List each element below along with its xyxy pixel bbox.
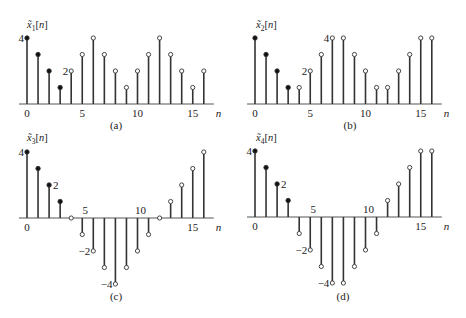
stem — [180, 69, 184, 104]
y-value-label: 2 — [302, 65, 308, 77]
x-tick-label: 15 — [415, 107, 427, 119]
open-marker — [180, 183, 184, 187]
stem — [308, 217, 312, 252]
stem — [374, 217, 378, 236]
open-marker — [202, 69, 206, 73]
x-tick-label: 0 — [252, 107, 258, 119]
stem — [69, 69, 73, 104]
open-marker — [146, 52, 150, 56]
open-marker — [297, 85, 301, 89]
stem — [352, 52, 356, 104]
filled-marker — [47, 183, 51, 187]
stem — [158, 36, 162, 104]
open-marker — [319, 52, 323, 56]
stem — [91, 36, 95, 104]
x-tick-label: 5 — [80, 107, 86, 119]
open-marker — [386, 198, 390, 202]
filled-marker — [286, 198, 290, 202]
open-marker — [330, 36, 334, 40]
stem — [275, 182, 279, 217]
y-value-label: 2 — [281, 178, 287, 190]
open-marker — [202, 150, 206, 154]
stem — [330, 217, 334, 285]
stem — [169, 199, 173, 218]
filled-marker — [47, 69, 51, 73]
stem-plot-d: 051015n42−2−4x̃4[n](d) — [247, 132, 450, 303]
stem — [386, 198, 390, 217]
filled-marker — [264, 165, 268, 169]
open-marker — [330, 281, 334, 285]
x-tick-label: 15 — [415, 220, 427, 232]
open-marker — [158, 36, 162, 40]
filled-marker — [275, 182, 279, 186]
open-marker — [430, 149, 434, 153]
filled-marker — [25, 150, 29, 154]
stem — [341, 36, 345, 104]
open-marker — [69, 69, 73, 73]
stem — [397, 182, 401, 217]
stem — [58, 85, 62, 104]
stem-plot-c: 051015n42−2−4x̃3[n](c) — [19, 132, 222, 303]
filled-marker — [36, 166, 40, 170]
panel-label: (d) — [337, 290, 350, 303]
y-value-label: 2 — [53, 179, 59, 191]
open-marker — [91, 249, 95, 253]
open-marker — [102, 52, 106, 56]
filled-marker — [253, 149, 257, 153]
y-value-label: 4 — [19, 32, 25, 44]
stem — [91, 218, 95, 253]
y-axis-label: x̃4[n] — [255, 132, 277, 146]
open-marker — [408, 52, 412, 56]
open-marker — [319, 264, 323, 268]
stem — [47, 69, 51, 104]
stem — [297, 85, 301, 104]
stem — [386, 85, 390, 104]
filled-marker — [264, 52, 268, 56]
x-tick-label: 15 — [187, 221, 199, 233]
x-tick-label: 10 — [135, 204, 147, 216]
x-tick-label: 5 — [83, 204, 89, 216]
open-marker — [363, 248, 367, 252]
y-value-label: 4 — [324, 32, 330, 44]
y-axis-label: x̃3[n] — [26, 132, 48, 146]
panel-label: (b) — [344, 119, 357, 132]
stem — [47, 183, 51, 218]
open-marker — [169, 52, 173, 56]
open-marker — [80, 232, 84, 236]
stem — [419, 36, 423, 104]
open-marker — [386, 85, 390, 89]
filled-marker — [253, 36, 257, 40]
y-value-label: 4 — [19, 146, 25, 158]
y-value-label: 2 — [63, 65, 69, 77]
stem — [158, 216, 162, 220]
open-marker — [180, 69, 184, 73]
x-tick-label: 0 — [24, 107, 30, 119]
stem — [102, 52, 106, 104]
y-axis-label: x̃1[n] — [26, 19, 48, 33]
open-marker — [419, 36, 423, 40]
stem-plot-a: 051015n42x̃1[n](a) — [19, 19, 222, 132]
stem — [69, 216, 73, 220]
stem — [135, 69, 139, 104]
stem — [202, 150, 206, 218]
open-marker — [341, 281, 345, 285]
stem — [169, 52, 173, 104]
x-tick-label: 15 — [187, 107, 199, 119]
open-marker — [124, 265, 128, 269]
panel-label: (a) — [110, 119, 123, 132]
open-marker — [146, 232, 150, 236]
open-marker — [297, 231, 301, 235]
stem — [58, 199, 62, 218]
stem — [319, 52, 323, 104]
open-marker — [363, 69, 367, 73]
open-marker — [374, 85, 378, 89]
open-marker — [308, 248, 312, 252]
stem — [286, 85, 290, 104]
open-marker — [191, 85, 195, 89]
open-marker — [158, 216, 162, 220]
y-value-label: −4 — [318, 277, 330, 289]
stem — [374, 85, 378, 104]
stem — [275, 69, 279, 104]
stem — [363, 217, 367, 252]
stem — [408, 165, 412, 217]
